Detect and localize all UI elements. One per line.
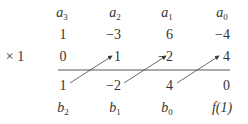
label-b2: b2: [57, 100, 69, 117]
label-b0: b0: [161, 100, 173, 117]
label-a1: a1: [161, 5, 173, 22]
product-1: 1: [114, 49, 121, 65]
label-a0: a0: [216, 5, 228, 22]
result-b0: 4: [166, 78, 173, 94]
label-a2: a2: [109, 5, 121, 22]
product-0: 0: [60, 49, 67, 65]
result-remainder: 0: [223, 78, 230, 94]
product-2: −2: [158, 49, 173, 65]
coef-a1: 6: [166, 27, 173, 43]
coef-a2: −3: [106, 27, 121, 43]
arrows-and-divider: [0, 0, 248, 124]
coef-a0: −4: [215, 27, 230, 43]
result-b1: −2: [106, 78, 121, 94]
coef-a3: 1: [60, 27, 67, 43]
label-b1: b1: [109, 100, 121, 117]
result-b2: 1: [60, 78, 67, 94]
label-a3: a3: [56, 5, 68, 22]
label-f1: f(1): [212, 100, 232, 116]
product-3: 4: [223, 49, 230, 65]
multiplier: × 1: [6, 49, 24, 65]
